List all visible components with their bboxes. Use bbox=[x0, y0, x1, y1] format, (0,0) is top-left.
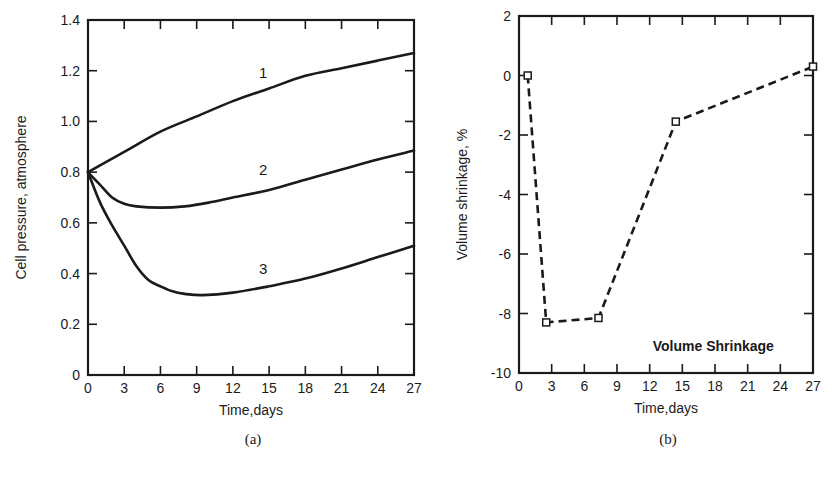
x-tick-label: 15 bbox=[675, 378, 691, 394]
data-point-marker bbox=[672, 118, 679, 125]
x-axis-label-a: Time,days bbox=[219, 402, 283, 418]
curve-label-3: 3 bbox=[259, 260, 267, 277]
data-point-marker bbox=[810, 63, 817, 70]
x-tick-label: 21 bbox=[740, 378, 756, 394]
plot-frame-a bbox=[88, 20, 414, 375]
x-tick-label: 9 bbox=[193, 380, 201, 396]
x-tick-label: 24 bbox=[370, 380, 386, 396]
y-tick-label: 1.0 bbox=[61, 113, 81, 129]
data-point-marker bbox=[543, 319, 550, 326]
curves-b bbox=[524, 63, 816, 326]
y-tick-label: 1.2 bbox=[61, 63, 81, 79]
y-tick-label: -6 bbox=[499, 246, 512, 262]
figure: 036912151821242700.20.40.60.81.01.21.4 1… bbox=[0, 0, 834, 489]
caption-b: (b) bbox=[659, 431, 677, 448]
series-line-volume-shrinkage bbox=[528, 67, 813, 323]
x-tick-label: 6 bbox=[580, 378, 588, 394]
data-point-marker bbox=[595, 314, 602, 321]
x-tick-label: 21 bbox=[334, 380, 350, 396]
y-tick-label: 0.6 bbox=[61, 215, 81, 231]
plot-frame-b bbox=[519, 16, 813, 373]
x-tick-label: 12 bbox=[225, 380, 241, 396]
y-tick-label: 0 bbox=[72, 367, 80, 383]
x-tick-label: 24 bbox=[773, 378, 789, 394]
curve-label-2: 2 bbox=[259, 161, 267, 178]
ticks-a: 036912151821242700.20.40.60.81.01.21.4 bbox=[61, 12, 422, 396]
legend-volume-shrinkage: Volume Shrinkage bbox=[653, 338, 774, 354]
x-tick-label: 27 bbox=[406, 380, 422, 396]
x-axis-label-b: Time,days bbox=[634, 400, 698, 416]
x-tick-label: 3 bbox=[548, 378, 556, 394]
x-tick-label: 0 bbox=[515, 378, 523, 394]
curve-2 bbox=[88, 151, 414, 208]
x-tick-label: 6 bbox=[157, 380, 165, 396]
data-point-marker bbox=[524, 72, 531, 79]
curve-3 bbox=[88, 172, 414, 295]
x-tick-label: 9 bbox=[613, 378, 621, 394]
curve-1 bbox=[88, 53, 414, 172]
y-tick-label: 1.4 bbox=[61, 12, 81, 28]
y-tick-label: -4 bbox=[499, 187, 512, 203]
x-tick-label: 18 bbox=[298, 380, 314, 396]
y-tick-label: 2 bbox=[503, 8, 511, 24]
y-tick-label: -2 bbox=[499, 127, 512, 143]
y-axis-label-a: Cell pressure, atmosphere bbox=[13, 115, 29, 279]
y-tick-label: -8 bbox=[499, 306, 512, 322]
x-tick-label: 18 bbox=[707, 378, 723, 394]
x-tick-label: 15 bbox=[261, 380, 277, 396]
ticks-b: 0369121518212427-10-8-6-4-202 bbox=[491, 8, 821, 394]
panel-b-volume-shrinkage: 0369121518212427-10-8-6-4-202 Volume Shr… bbox=[454, 8, 821, 448]
y-axis-label-b: Volume shrinkage, % bbox=[454, 129, 470, 261]
x-tick-label: 3 bbox=[120, 380, 128, 396]
curve-label-1: 1 bbox=[259, 64, 267, 81]
y-tick-label: -10 bbox=[491, 365, 511, 381]
x-tick-label: 27 bbox=[805, 378, 821, 394]
curves-a: 123 bbox=[88, 53, 414, 295]
caption-a: (a) bbox=[245, 431, 262, 448]
y-tick-label: 0.2 bbox=[61, 316, 81, 332]
panel-a-cell-pressure: 036912151821242700.20.40.60.81.01.21.4 1… bbox=[13, 12, 422, 448]
x-tick-label: 0 bbox=[84, 380, 92, 396]
y-tick-label: 0.8 bbox=[61, 164, 81, 180]
x-tick-label: 12 bbox=[642, 378, 658, 394]
y-tick-label: 0.4 bbox=[61, 266, 81, 282]
y-tick-label: 0 bbox=[503, 68, 511, 84]
